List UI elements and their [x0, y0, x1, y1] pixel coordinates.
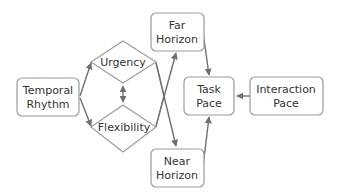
- interaction-pace-line2: Pace: [273, 97, 299, 110]
- far-horizon-line1: Far: [169, 19, 186, 32]
- urgency-to-near-horizon-arrow: [156, 63, 176, 146]
- far-horizon-line2: Horizon: [156, 33, 198, 46]
- interaction-pace-node: Interaction Pace: [250, 77, 323, 115]
- flexibility-node: Flexibility: [91, 105, 156, 152]
- task-pace-line1: Task: [196, 83, 221, 96]
- temporal-rhythm-line1: Temporal: [22, 84, 73, 97]
- urgency-node: Urgency: [91, 41, 156, 83]
- urgency-label: Urgency: [100, 56, 146, 69]
- near-horizon-line1: Near: [164, 155, 191, 168]
- rhythm-to-urgency-arrow: [80, 63, 91, 96]
- diagram-canvas: Urgency Flexibility Temporal Rhythm Far …: [0, 0, 337, 195]
- near-horizon-line2: Horizon: [156, 169, 198, 182]
- flexibility-to-far-horizon-arrow: [156, 53, 176, 126]
- task-pace-line2: Pace: [196, 97, 222, 110]
- task-pace-node: Task Pace: [184, 77, 234, 115]
- flexibility-label: Flexibility: [98, 121, 151, 134]
- rhythm-to-flexibility-arrow: [80, 98, 91, 126]
- near-horizon-node: Near Horizon: [151, 149, 204, 187]
- temporal-rhythm-node: Temporal Rhythm: [17, 78, 79, 116]
- interaction-pace-line1: Interaction: [256, 83, 316, 96]
- temporal-rhythm-line2: Rhythm: [26, 98, 69, 111]
- far-horizon-node: Far Horizon: [151, 13, 204, 51]
